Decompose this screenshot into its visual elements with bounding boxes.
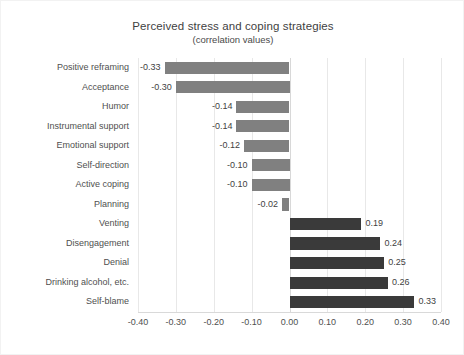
bar-row: Venting0.19	[1, 214, 464, 234]
x-tick-label: 0.40	[421, 315, 461, 329]
x-tick-label: 0.10	[307, 315, 347, 329]
category-label: Acceptance	[1, 78, 129, 98]
x-tick-label: -0.20	[194, 315, 234, 329]
bar-value-label: -0.02	[252, 195, 278, 215]
bar-value-label: -0.14	[206, 117, 232, 137]
bar-value-label: 0.24	[384, 234, 402, 254]
bar-row: Self-blame0.33	[1, 292, 464, 312]
bar-row: Emotional support-0.12	[1, 136, 464, 156]
bar-row: Planning-0.02	[1, 195, 464, 215]
bar	[165, 62, 290, 74]
bar	[244, 140, 289, 152]
category-label: Self-direction	[1, 156, 129, 176]
bar-value-label: 0.25	[388, 253, 406, 273]
bar	[282, 198, 290, 210]
bar	[176, 81, 290, 93]
x-tick-label: 0.20	[345, 315, 385, 329]
bar-row: Disengagement0.24	[1, 234, 464, 254]
x-tick-label: 0.30	[383, 315, 423, 329]
category-label: Humor	[1, 97, 129, 117]
x-tick-label: 0.00	[270, 315, 310, 329]
category-label: Drinking alcohol, etc.	[1, 273, 129, 293]
x-tick-label: -0.30	[156, 315, 196, 329]
chart-subtitle: (correlation values)	[1, 33, 464, 46]
category-label: Planning	[1, 195, 129, 215]
bar-row: Denial0.25	[1, 253, 464, 273]
bar-row: Self-direction-0.10	[1, 156, 464, 176]
bar-row: Humor-0.14	[1, 97, 464, 117]
bar-value-label: 0.19	[365, 214, 383, 234]
bar	[236, 120, 289, 132]
category-label: Positive reframing	[1, 58, 129, 78]
bar-value-label: -0.10	[222, 156, 248, 176]
x-axis-line	[138, 312, 441, 313]
bar	[252, 159, 290, 171]
bar-value-label: 0.33	[418, 292, 436, 312]
category-label: Venting	[1, 214, 129, 234]
bar-value-label: -0.12	[214, 136, 240, 156]
bar	[290, 218, 362, 230]
bar	[252, 179, 290, 191]
bar-value-label: -0.14	[206, 97, 232, 117]
bar	[290, 257, 385, 269]
bar-value-label: -0.10	[222, 175, 248, 195]
bar	[290, 237, 381, 249]
bar	[290, 296, 415, 308]
bar	[290, 277, 388, 289]
bar-value-label: -0.30	[146, 78, 172, 98]
x-tick-label: -0.40	[118, 315, 158, 329]
bar-chart-figure: Perceived stress and coping strategies (…	[0, 0, 464, 355]
category-label: Self-blame	[1, 292, 129, 312]
bar-row: Instrumental support-0.14	[1, 117, 464, 137]
category-label: Active coping	[1, 175, 129, 195]
category-label: Disengagement	[1, 234, 129, 254]
chart-title: Perceived stress and coping strategies	[1, 19, 464, 33]
category-label: Instrumental support	[1, 117, 129, 137]
bar-row: Drinking alcohol, etc.0.26	[1, 273, 464, 293]
x-tick-label: -0.10	[232, 315, 272, 329]
bar-value-label: 0.26	[392, 273, 410, 293]
bar	[236, 101, 289, 113]
chart-title-block: Perceived stress and coping strategies (…	[1, 19, 464, 46]
bar-row: Positive reframing-0.33	[1, 58, 464, 78]
category-label: Emotional support	[1, 136, 129, 156]
bar-row: Active coping-0.10	[1, 175, 464, 195]
bar-row: Acceptance-0.30	[1, 78, 464, 98]
category-label: Denial	[1, 253, 129, 273]
bar-value-label: -0.33	[135, 58, 161, 78]
